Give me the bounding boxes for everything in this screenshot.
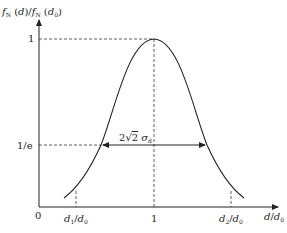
y-tick-one: 1 xyxy=(28,33,34,44)
y-axis-label: fN (d)/fN (d0) xyxy=(1,6,62,18)
gaussian-diagram: fN (d)/fN (d0) 1 1/e 0 d1/d0 1 d2/d0 d/d… xyxy=(0,0,287,233)
x-tick-d2: d2/d0 xyxy=(219,213,243,225)
x-tick-d1: d1/d0 xyxy=(64,213,88,225)
x-axis-label: d/d0 xyxy=(264,211,284,223)
origin-label: 0 xyxy=(35,210,41,221)
width-annotation: 2√2σd xyxy=(119,132,152,144)
y-tick-one-over-e: 1/e xyxy=(17,140,33,151)
x-tick-center: 1 xyxy=(151,213,157,224)
